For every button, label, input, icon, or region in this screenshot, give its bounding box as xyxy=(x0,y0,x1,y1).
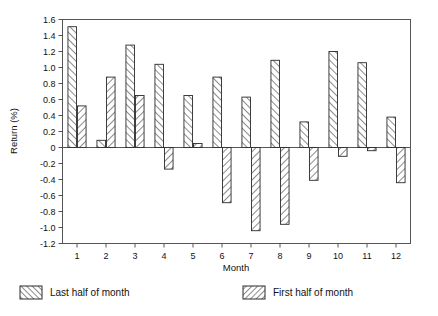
hatch-back-slash-swatch xyxy=(243,286,265,299)
bar-last-half-month-10 xyxy=(329,52,338,148)
bar-first-half-month-8 xyxy=(281,148,290,225)
y-tick-label: 0.4 xyxy=(43,111,56,121)
bar-last-half-month-9 xyxy=(300,122,309,148)
x-tick-label: 3 xyxy=(132,251,137,261)
bar-first-half-month-12 xyxy=(397,148,406,183)
bar-last-half-month-1 xyxy=(68,27,77,148)
bar-first-half-month-2 xyxy=(107,77,116,147)
y-tick-label: -1.2 xyxy=(40,239,56,249)
x-tick-label: 9 xyxy=(306,251,311,261)
y-tick-label: -1.0 xyxy=(40,223,56,233)
bar-last-half-month-7 xyxy=(242,97,251,147)
x-axis-title: Month xyxy=(223,262,249,273)
y-tick-label: 0.6 xyxy=(43,95,56,105)
bar-first-half-month-7 xyxy=(252,148,261,231)
y-tick-label: 0 xyxy=(50,143,55,153)
y-tick-label: 0.2 xyxy=(43,127,56,137)
y-tick-label: -0.6 xyxy=(40,191,56,201)
x-tick-label: 5 xyxy=(190,251,195,261)
y-tick-label: -0.4 xyxy=(40,175,56,185)
bar-last-half-month-6 xyxy=(213,77,222,147)
y-tick-label: 1.4 xyxy=(43,31,56,41)
y-tick-label: -0.2 xyxy=(40,159,56,169)
bar-last-half-month-8 xyxy=(271,60,280,147)
x-tick-label: 2 xyxy=(103,251,108,261)
bar-last-half-month-2 xyxy=(97,140,106,147)
y-axis-title: Return (%) xyxy=(8,108,19,154)
x-tick-label: 1 xyxy=(74,251,79,261)
x-tick-label: 4 xyxy=(161,251,166,261)
x-tick-label: 7 xyxy=(248,251,253,261)
legend-item-first-half-label: First half of month xyxy=(273,287,353,298)
bar-first-half-month-3 xyxy=(136,96,145,148)
x-tick-label: 11 xyxy=(362,251,371,261)
y-tick-label: 1.0 xyxy=(43,63,56,73)
legend-item-last-half-label: Last half of month xyxy=(50,287,130,298)
chart-figure: 1.61.41.21.00.80.60.40.20-0.2-0.4-0.6-0.… xyxy=(0,0,438,316)
bar-first-half-month-1 xyxy=(78,106,87,148)
bar-first-half-month-5 xyxy=(194,144,203,148)
y-tick-label: 0.8 xyxy=(43,79,56,89)
bar-first-half-month-10 xyxy=(339,148,348,157)
bar-last-half-month-4 xyxy=(155,64,164,147)
x-tick-label: 6 xyxy=(219,251,224,261)
hatch-forward-slash-swatch xyxy=(20,286,42,299)
y-tick-label: 1.6 xyxy=(43,15,56,25)
x-tick-label: 8 xyxy=(277,251,282,261)
return-by-month-bar-chart: 1.61.41.21.00.80.60.40.20-0.2-0.4-0.6-0.… xyxy=(0,0,438,316)
bar-first-half-month-4 xyxy=(165,148,174,170)
x-tick-label: 12 xyxy=(391,251,401,261)
bar-last-half-month-12 xyxy=(387,117,396,147)
y-tick-label: 1.2 xyxy=(43,47,56,57)
y-tick-label: -0.8 xyxy=(40,207,56,217)
bar-first-half-month-11 xyxy=(368,148,377,151)
bar-last-half-month-5 xyxy=(184,96,193,148)
bar-last-half-month-3 xyxy=(126,45,135,147)
bar-last-half-month-11 xyxy=(358,63,367,148)
chart-background xyxy=(0,0,438,316)
bar-first-half-month-9 xyxy=(310,148,319,181)
x-tick-label: 10 xyxy=(333,251,343,261)
bar-first-half-month-6 xyxy=(223,148,232,203)
